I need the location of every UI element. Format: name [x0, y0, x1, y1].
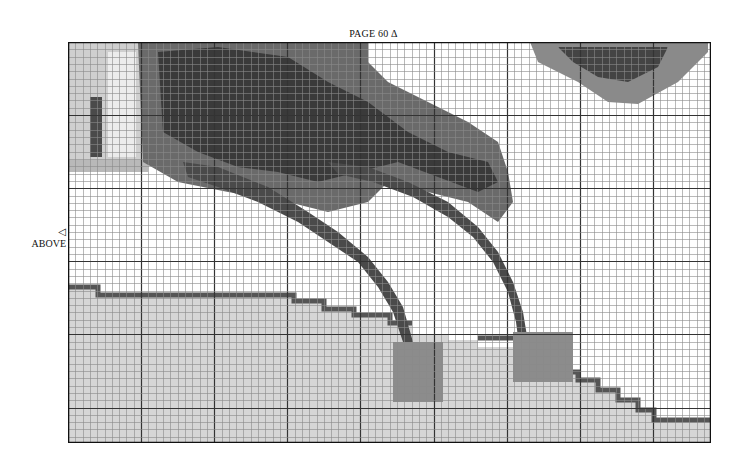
stitch-chart — [68, 42, 711, 443]
side-label-text: ABOVE — [20, 238, 66, 250]
side-label: ◁ ABOVE — [20, 226, 66, 250]
ground-region — [68, 285, 711, 443]
chart-artwork — [68, 42, 711, 443]
page-number-text: PAGE 60 — [349, 28, 388, 39]
up-triangle-icon: Δ — [391, 28, 398, 39]
trunk-base-right — [513, 332, 573, 382]
left-triangle-icon: ◁ — [20, 226, 66, 238]
trunk-base-left — [393, 342, 443, 402]
page-label: PAGE 60 Δ — [0, 28, 747, 39]
